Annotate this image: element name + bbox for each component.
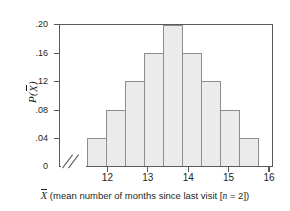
y-ticklabel-20: .20 bbox=[35, 20, 48, 29]
x-ticklabel-13: 13 bbox=[136, 172, 160, 184]
x-ticklabel-14: 14 bbox=[176, 172, 200, 184]
histogram-figure: P(X) .20 .16 .12 .08 .04 0 bbox=[0, 0, 290, 211]
bar bbox=[87, 138, 107, 166]
y-ticklabel-16: .16 bbox=[35, 48, 48, 57]
y-ticklabel-04: .04 bbox=[35, 134, 48, 143]
bar bbox=[144, 53, 164, 166]
x-ticklabel-16: 16 bbox=[257, 172, 281, 184]
x-axis-title: X (mean number of months since last visi… bbox=[0, 189, 290, 202]
x-axis-title-text-after: = 2]) bbox=[227, 190, 249, 201]
bar bbox=[163, 25, 183, 166]
bar bbox=[182, 53, 202, 166]
bar bbox=[201, 81, 221, 166]
bar bbox=[125, 81, 145, 166]
x-axis-title-text-before: (mean number of months since last visit … bbox=[47, 190, 222, 201]
y-ticklabel-12: .12 bbox=[35, 77, 48, 86]
y-axis-zero-label: 0 bbox=[34, 161, 48, 171]
bar bbox=[239, 138, 259, 166]
x-ticklabel-12: 12 bbox=[95, 172, 119, 184]
plot-area bbox=[60, 25, 272, 166]
x-axis-ticklabels: 12 13 14 15 16 bbox=[59, 172, 273, 186]
plot-frame bbox=[59, 24, 273, 167]
x-axis-title-xbar: X bbox=[41, 189, 47, 202]
x-ticklabel-15: 15 bbox=[217, 172, 241, 184]
bar bbox=[106, 110, 126, 166]
y-ticklabel-08: .08 bbox=[35, 105, 48, 114]
y-axis-ticklabels: .20 .16 .12 .08 .04 bbox=[24, 16, 48, 176]
bar-series bbox=[60, 25, 272, 166]
bar bbox=[220, 110, 240, 166]
